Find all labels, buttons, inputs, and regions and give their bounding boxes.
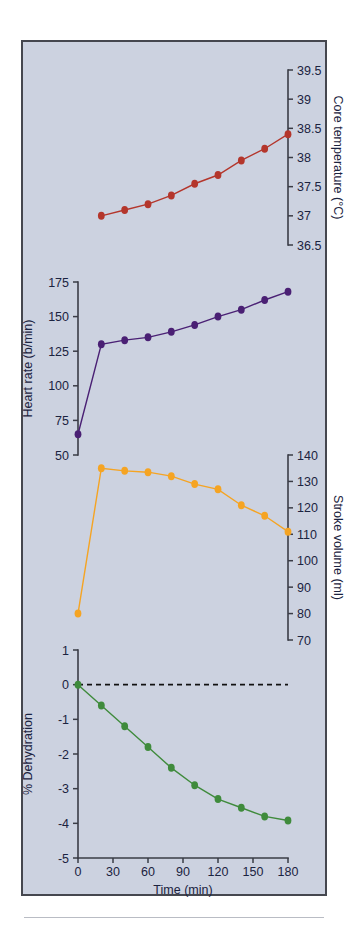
- y-tick-label-dehydration: -1: [58, 713, 69, 727]
- data-point-core-temperature: [261, 145, 268, 153]
- x-axis-group: 0306090120150180Time (min): [75, 858, 299, 897]
- data-point-dehydration: [215, 795, 222, 803]
- data-point-dehydration: [191, 781, 198, 789]
- data-point-heart-rate: [191, 321, 198, 329]
- y-tick-label-dehydration: -5: [58, 852, 69, 866]
- x-tick-label: 60: [141, 865, 155, 879]
- y-tick-label-heart-rate: 125: [48, 345, 69, 359]
- y-tick-label-heart-rate: 75: [55, 414, 69, 428]
- y-tick-label-dehydration: 1: [62, 644, 69, 658]
- y-tick-label-core-temperature: 38.5: [297, 122, 321, 136]
- data-point-stroke-volume: [75, 610, 82, 618]
- data-point-stroke-volume: [98, 464, 105, 472]
- data-point-core-temperature: [98, 212, 105, 220]
- data-point-stroke-volume: [261, 512, 268, 520]
- y-tick-label-dehydration: 0: [62, 678, 69, 692]
- y-tick-label-core-temperature: 39: [297, 93, 311, 107]
- data-point-stroke-volume: [238, 501, 245, 509]
- data-point-stroke-volume: [168, 472, 175, 480]
- data-point-stroke-volume: [215, 485, 222, 493]
- y-tick-label-dehydration: -4: [58, 817, 69, 831]
- y-tick-label-core-temperature: 37: [297, 209, 311, 223]
- data-point-stroke-volume: [121, 467, 128, 475]
- panel-heart-rate: 5075100125150175Heart rate (b/min): [21, 276, 291, 463]
- x-tick-label: 0: [75, 865, 82, 879]
- series-line-stroke-volume: [78, 468, 288, 613]
- data-point-dehydration: [285, 817, 292, 825]
- figure-root: 36.53737.53838.53939.5Core temperature (…: [0, 0, 348, 938]
- y-axis-title-heart-rate: Heart rate (b/min): [21, 320, 35, 418]
- data-point-core-temperature: [215, 171, 222, 179]
- data-point-core-temperature: [191, 180, 198, 188]
- y-tick-label-heart-rate: 150: [48, 310, 69, 324]
- data-point-stroke-volume: [191, 480, 198, 488]
- data-point-dehydration: [145, 743, 152, 751]
- panel-stroke-volume: 708090100110120130140Stroke volume (ml): [75, 449, 345, 648]
- y-axis-title-core-temperature: Core temperature (°C): [331, 96, 345, 220]
- y-tick-label-dehydration: -2: [58, 748, 69, 762]
- y-tick-label-heart-rate: 175: [48, 276, 69, 290]
- panel-core-temperature: 36.53737.53838.53939.5Core temperature (…: [98, 64, 345, 253]
- x-tick-label: 150: [243, 865, 264, 879]
- data-point-heart-rate: [261, 296, 268, 304]
- data-point-heart-rate: [168, 328, 175, 336]
- data-point-stroke-volume: [285, 528, 292, 536]
- data-point-heart-rate: [215, 313, 222, 321]
- x-tick-label: 180: [278, 865, 299, 879]
- data-point-dehydration: [98, 701, 105, 709]
- y-tick-label-stroke-volume: 110: [297, 528, 317, 542]
- y-tick-label-core-temperature: 39.5: [297, 64, 321, 78]
- data-point-core-temperature: [145, 200, 152, 208]
- x-tick-label: 30: [106, 865, 120, 879]
- y-axis-title-dehydration: % Dehydration: [21, 713, 35, 795]
- y-tick-label-core-temperature: 38: [297, 151, 311, 165]
- data-point-dehydration: [75, 681, 82, 689]
- y-tick-label-stroke-volume: 90: [297, 581, 311, 595]
- panel-dehydration: -5-4-3-2-101% Dehydration: [21, 644, 291, 866]
- series-line-core-temperature: [101, 134, 288, 216]
- data-point-heart-rate: [98, 340, 105, 348]
- data-point-heart-rate: [75, 430, 82, 438]
- series-line-heart-rate: [78, 292, 288, 435]
- y-tick-label-stroke-volume: 100: [297, 554, 318, 568]
- multi-panel-chart: 36.53737.53838.53939.5Core temperature (…: [0, 0, 348, 938]
- series-line-dehydration: [78, 685, 288, 821]
- y-axis-title-stroke-volume: Stroke volume (ml): [331, 495, 345, 600]
- data-point-dehydration: [121, 722, 128, 730]
- data-point-heart-rate: [238, 306, 245, 314]
- data-point-heart-rate: [121, 336, 128, 344]
- data-point-core-temperature: [285, 130, 292, 138]
- data-point-core-temperature: [238, 156, 245, 164]
- data-point-core-temperature: [168, 191, 175, 199]
- data-point-stroke-volume: [145, 468, 152, 476]
- y-tick-label-dehydration: -3: [58, 782, 69, 796]
- data-point-dehydration: [168, 764, 175, 772]
- y-tick-label-stroke-volume: 130: [297, 475, 318, 489]
- x-axis-title: Time (min): [153, 883, 212, 897]
- data-point-core-temperature: [121, 206, 128, 214]
- data-point-dehydration: [261, 812, 268, 820]
- y-tick-label-core-temperature: 36.5: [297, 239, 321, 253]
- data-point-heart-rate: [145, 333, 152, 341]
- data-point-heart-rate: [285, 288, 292, 296]
- x-tick-label: 90: [176, 865, 190, 879]
- x-tick-label: 120: [208, 865, 229, 879]
- y-tick-label-stroke-volume: 70: [297, 634, 311, 648]
- y-tick-label-stroke-volume: 140: [297, 449, 318, 463]
- y-tick-label-heart-rate: 100: [48, 379, 69, 393]
- y-tick-label-heart-rate: 50: [55, 449, 69, 463]
- y-tick-label-core-temperature: 37.5: [297, 180, 321, 194]
- y-tick-label-stroke-volume: 80: [297, 607, 311, 621]
- data-point-dehydration: [238, 804, 245, 812]
- y-tick-label-stroke-volume: 120: [297, 501, 318, 515]
